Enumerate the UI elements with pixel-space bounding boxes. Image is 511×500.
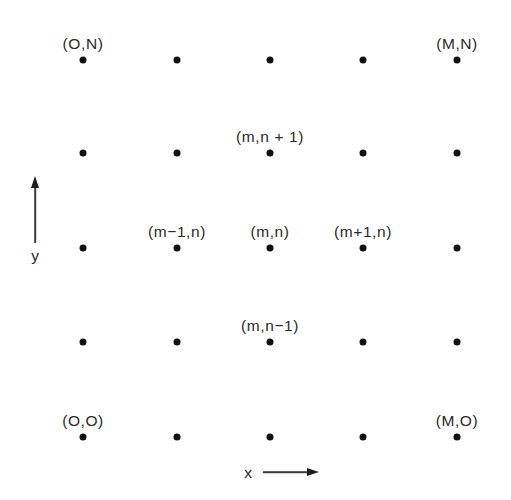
lattice-dot (360, 434, 367, 441)
lattice-dot (454, 245, 461, 252)
y-axis-arrowhead-icon (31, 176, 39, 188)
node-label-corner-bottom-left: (O,O) (62, 413, 104, 429)
lattice-dot (174, 150, 181, 157)
lattice-dot (80, 150, 87, 157)
lattice-dot (267, 150, 274, 157)
lattice-dot (454, 339, 461, 346)
lattice-dot (454, 434, 461, 441)
lattice-dot (360, 150, 367, 157)
lattice-dot (267, 339, 274, 346)
node-label-node-right: (m+1,n) (334, 224, 392, 240)
x-axis-arrowhead-icon (307, 468, 319, 476)
node-label-node-left: (m−1,n) (148, 224, 206, 240)
node-label-node-center: (m,n) (250, 224, 289, 240)
lattice-dot (360, 57, 367, 64)
lattice-dot (174, 57, 181, 64)
lattice-dot (174, 434, 181, 441)
lattice-dot (267, 434, 274, 441)
lattice-dot (174, 339, 181, 346)
lattice-figure: (O,O)(M,O)(O,N)(M,N)(m,n + 1)(m−1,n)(m,n… (0, 0, 511, 500)
lattice-dot (267, 245, 274, 252)
lattice-dot (174, 245, 181, 252)
node-label-corner-top-right: (M,N) (436, 36, 478, 52)
y-axis-label: y (31, 248, 39, 264)
lattice-dot (267, 57, 274, 64)
lattice-dot (80, 57, 87, 64)
y-axis-shaft (34, 187, 36, 243)
lattice-dot (80, 339, 87, 346)
lattice-dot (80, 245, 87, 252)
lattice-dot (454, 57, 461, 64)
x-axis-shaft (263, 471, 308, 473)
node-label-node-up: (m,n + 1) (236, 129, 304, 145)
node-label-corner-bottom-right: (M,O) (436, 413, 479, 429)
node-label-corner-top-left: (O,N) (63, 36, 104, 52)
lattice-dot (360, 339, 367, 346)
lattice-dot (454, 150, 461, 157)
node-label-node-down: (m,n−1) (241, 318, 299, 334)
lattice-dot (80, 434, 87, 441)
lattice-dot (360, 245, 367, 252)
x-axis-label: x (244, 465, 252, 481)
